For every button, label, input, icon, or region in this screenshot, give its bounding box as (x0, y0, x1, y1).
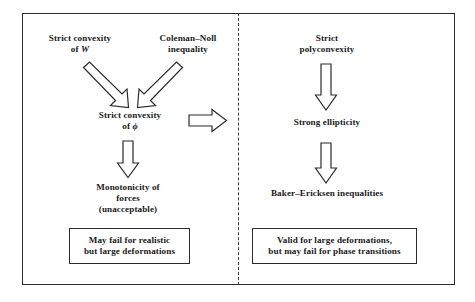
node-monotonicity-of-forces: Monotonicity of forces (unacceptable) (66, 182, 190, 216)
node-strict-polyconvexity: Strict polyconvexity (262, 33, 392, 55)
node-strict-convexity-w: Strict convexity of W (28, 33, 132, 55)
node-baker-ericksen-inequalities: Baker–Ericksen inequalities (244, 188, 410, 199)
node-strict-convexity-phi: Strict convexity of ϕ (78, 110, 182, 132)
diagram-root: Strict convexity of W Coleman–Noll inequ… (0, 0, 475, 302)
conclusion-box-right: Valid for large deformations, but may fa… (252, 228, 417, 264)
node-strong-ellipticity: Strong ellipticity (252, 117, 402, 128)
node-coleman-noll-inequality: Coleman–Noll inequality (136, 33, 240, 55)
conclusion-box-left: May fail for realistic but large deforma… (69, 228, 190, 264)
math-symbol: W (81, 44, 89, 54)
math-symbol: ϕ (132, 121, 137, 131)
